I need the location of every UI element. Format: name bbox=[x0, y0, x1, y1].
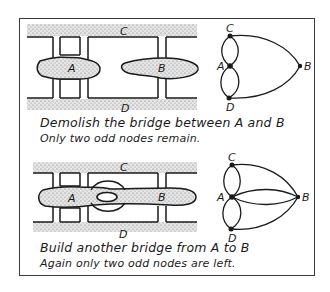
graph-label-c: C bbox=[226, 22, 234, 35]
graph-label-d: D bbox=[226, 101, 234, 114]
top-graph-nodes bbox=[227, 34, 303, 101]
map-label-d: D bbox=[121, 102, 129, 115]
graph-label-c-2: C bbox=[228, 151, 236, 164]
node-a bbox=[227, 63, 233, 69]
node-b-2 bbox=[296, 195, 300, 199]
map-label-c: C bbox=[120, 25, 128, 38]
graph-label-a-2: A bbox=[216, 191, 225, 204]
caption-bottom-line1: Build another bridge from A to B bbox=[40, 240, 250, 255]
graph-label-b: B bbox=[304, 60, 312, 73]
caption-top-line1: Demolish the bridge between A and B bbox=[40, 115, 285, 130]
map-label-b-2: B bbox=[158, 191, 166, 204]
caption-bottom-line2: Again only two odd nodes are left. bbox=[40, 257, 236, 270]
bottom-river-map: C A B D bbox=[33, 161, 197, 241]
map-label-b: B bbox=[158, 62, 166, 75]
top-river-map: C A B D bbox=[27, 24, 198, 115]
node-d-2 bbox=[229, 227, 234, 232]
graph-label-a: A bbox=[216, 60, 225, 73]
map-label-a: A bbox=[67, 62, 76, 75]
node-b bbox=[298, 64, 302, 68]
node-d bbox=[227, 96, 232, 101]
map-label-a-2: A bbox=[67, 192, 76, 205]
map-label-c-2: C bbox=[120, 161, 128, 174]
graph-label-b-2: B bbox=[302, 191, 310, 204]
node-a-2 bbox=[229, 194, 235, 200]
top-graph bbox=[221, 35, 300, 98]
caption-top-line2: Only two odd nodes remain. bbox=[40, 132, 201, 145]
